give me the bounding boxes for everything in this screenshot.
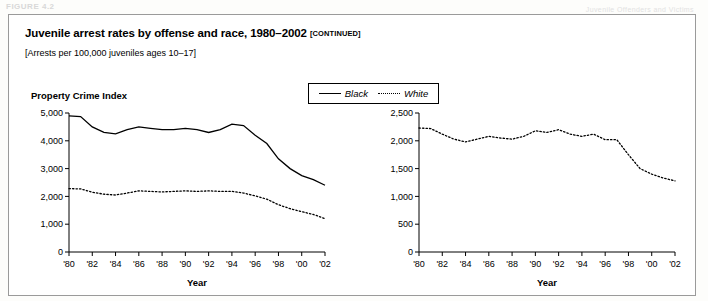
x-axis-label: Year [537, 277, 557, 288]
y-tick-label: 2,000 [40, 192, 63, 202]
chart-svg: 05001,0001,5002,0002,500'80'82'84'86'88'… [381, 107, 681, 292]
figure-title-text: Juvenile arrest rates by offense and rac… [25, 27, 307, 39]
x-axis-label: Year [187, 277, 207, 288]
y-tick-label: 0 [408, 247, 413, 257]
legend-line-solid-icon [319, 93, 341, 94]
legend-label-white: White [404, 88, 428, 99]
series-line-black [69, 116, 325, 186]
x-tick-label: '00 [646, 259, 658, 269]
figure-title-continued: [CONTINUED] [310, 29, 361, 38]
x-tick-label: '82 [436, 259, 448, 269]
y-tick-label: 2,000 [390, 136, 413, 146]
y-tick-label: 2,500 [390, 108, 413, 118]
figure-subtitle: [Arrests per 100,000 juveniles ages 10–1… [25, 48, 196, 58]
x-tick-label: '88 [506, 259, 518, 269]
x-tick-label: '00 [296, 259, 308, 269]
legend-label-black: Black [345, 88, 368, 99]
y-tick-label: 1,000 [40, 219, 63, 229]
x-tick-label: '94 [576, 259, 588, 269]
x-tick-label: '90 [179, 259, 191, 269]
legend-item-white: White [378, 88, 428, 99]
y-tick-label: 0 [58, 247, 63, 257]
legend-item-black: Black [319, 88, 368, 99]
x-tick-label: '94 [226, 259, 238, 269]
x-tick-label: '98 [623, 259, 635, 269]
section-heading: Property Crime Index [31, 90, 127, 101]
x-tick-label: '92 [553, 259, 565, 269]
x-tick-label: '86 [133, 259, 145, 269]
y-tick-label: 5,000 [40, 108, 63, 118]
chart-property-crime-index-right: 05001,0001,5002,0002,500'80'82'84'86'88'… [381, 107, 681, 292]
x-tick-label: '02 [669, 259, 681, 269]
x-tick-label: '80 [63, 259, 75, 269]
series-line-white [69, 189, 325, 219]
page-header-artifact-right: Juvenile Offenders and Victims [586, 6, 694, 13]
x-tick-label: '90 [529, 259, 541, 269]
x-tick-label: '80 [413, 259, 425, 269]
x-tick-label: '88 [156, 259, 168, 269]
chart-svg: 01,0002,0003,0004,0005,000'80'82'84'86'8… [31, 107, 331, 292]
x-tick-label: '84 [460, 259, 472, 269]
y-tick-label: 500 [398, 219, 413, 229]
chart-legend: Black White [308, 83, 439, 104]
x-tick-label: '98 [273, 259, 285, 269]
y-tick-label: 4,000 [40, 136, 63, 146]
x-tick-label: '96 [599, 259, 611, 269]
y-tick-label: 1,500 [390, 164, 413, 174]
y-tick-label: 1,000 [390, 192, 413, 202]
legend-line-dotted-icon [378, 93, 400, 94]
figure-title: Juvenile arrest rates by offense and rac… [25, 27, 361, 39]
x-tick-label: '02 [319, 259, 331, 269]
figure-container: Juvenile arrest rates by offense and rac… [8, 14, 696, 296]
series-line-white [419, 128, 675, 181]
x-tick-label: '84 [110, 259, 122, 269]
x-tick-label: '86 [483, 259, 495, 269]
chart-property-crime-index-left: 01,0002,0003,0004,0005,000'80'82'84'86'8… [31, 107, 331, 292]
page-canvas: FIGURE 4.2 Juvenile Offenders and Victim… [0, 0, 708, 301]
x-tick-label: '82 [86, 259, 98, 269]
y-tick-label: 3,000 [40, 164, 63, 174]
x-tick-label: '96 [249, 259, 261, 269]
page-header-artifact: FIGURE 4.2 [6, 2, 55, 11]
x-tick-label: '92 [203, 259, 215, 269]
